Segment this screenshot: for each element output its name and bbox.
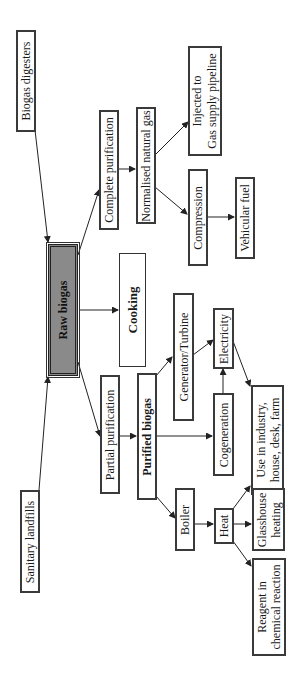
node-label: Partial purification — [104, 389, 116, 479]
node-label: Heat — [218, 515, 230, 538]
node-electricity: Electricity — [213, 308, 234, 369]
node-label: Normalised natural gas — [140, 110, 152, 221]
node-partial-purification: Partial purification — [100, 375, 120, 494]
node-complete-purification: Complete purification — [99, 110, 119, 230]
node-label-line-2: Gas supply pipeline — [205, 53, 219, 148]
node-label: Raw biogas — [57, 280, 69, 339]
node-label-line-2: heating — [269, 502, 283, 537]
node-label: Generator/Turbine — [178, 313, 190, 402]
node-heat: Heat — [214, 508, 234, 544]
node-label: Use in industry, house, desk, farm — [254, 398, 282, 483]
node-injected-gas-pipeline: Injected to Gas supply pipeline — [188, 46, 222, 156]
node-normalised-natural-gas: Normalised natural gas — [136, 107, 156, 224]
node-label-line-2: chemical reaction — [269, 565, 283, 650]
node-label: Electricity — [218, 314, 230, 364]
node-label: Glasshouse heating — [255, 492, 283, 547]
node-label: Reagent in chemical reaction — [255, 565, 283, 650]
node-label-line-1: Glasshouse — [255, 492, 269, 547]
node-cooking: Cooking — [119, 253, 146, 367]
node-label: Sanitary landfills — [24, 500, 36, 582]
node-cogeneration: Cogeneration — [213, 393, 234, 476]
node-reagent-chemical-reaction: Reagent in chemical reaction — [252, 558, 286, 656]
node-label-line-2: house, desk, farm — [268, 398, 282, 483]
node-biogas-digesters: Biogas digesters — [16, 30, 36, 132]
node-purified-biogas: Purified biogas — [137, 373, 157, 500]
node-label: Purified biogas — [141, 398, 153, 476]
node-boiler: Boiler — [175, 488, 195, 551]
node-label: Cooking — [127, 287, 139, 334]
node-vehicular-fuel: Vehicular fuel — [235, 177, 255, 259]
node-label-line-1: Use in industry, — [254, 402, 268, 478]
node-generator-turbine: Generator/Turbine — [173, 293, 194, 421]
node-label-line-1: Reagent in — [255, 581, 269, 633]
node-label: Boiler — [179, 505, 191, 535]
node-raw-biogas: Raw biogas — [48, 244, 78, 376]
node-label: Complete purification — [103, 117, 115, 223]
node-sanitary-landfills: Sanitary landfills — [20, 490, 40, 593]
node-label: Injected to Gas supply pipeline — [190, 53, 220, 148]
node-label-line-1: Injected to — [190, 76, 204, 127]
node-compression: Compression — [188, 169, 208, 266]
node-glasshouse-heating: Glasshouse heating — [252, 488, 285, 551]
node-label: Compression — [192, 186, 204, 249]
node-label: Biogas digesters — [20, 42, 32, 121]
node-label: Vehicular fuel — [239, 184, 251, 252]
node-label: Cogeneration — [218, 402, 230, 467]
node-use-in-industry: Use in industry, house, desk, farm — [251, 385, 284, 495]
